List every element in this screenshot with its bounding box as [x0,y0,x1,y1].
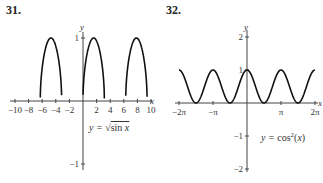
svg-text:−2π: −2π [172,107,187,117]
charts-canvas: −10−8−6−4−22468101−1 x y y = √sin x −2π−… [0,0,323,183]
svg-text:−1: −1 [233,131,243,141]
curve-sqrt-sin [40,38,147,98]
svg-text:−π: −π [208,107,218,117]
svg-text:2: 2 [239,32,244,42]
svg-text:−10: −10 [8,105,23,115]
svg-text:2: 2 [94,105,99,115]
svg-text:−1: −1 [69,159,79,169]
chart-32-equation: y = cos2(x) [260,131,305,144]
chart-31-equation: y = √sin x [88,122,130,133]
svg-text:10: 10 [147,105,157,115]
svg-text:y: y [243,22,248,32]
svg-text:2π: 2π [310,107,320,117]
svg-text:−6: −6 [37,105,47,115]
svg-text:6: 6 [122,105,127,115]
svg-text:−2: −2 [233,164,243,174]
svg-text:4: 4 [108,105,113,115]
svg-text:−8: −8 [24,105,34,115]
svg-text:1: 1 [239,65,244,75]
svg-text:x: x [149,96,154,106]
svg-text:1: 1 [75,33,80,43]
svg-text:−4: −4 [51,105,61,115]
svg-text:x: x [317,98,322,108]
chart-31 [10,32,152,170]
svg-text:π: π [279,107,284,117]
svg-text:8: 8 [135,105,140,115]
svg-text:y: y [79,22,84,32]
svg-text:−2: −2 [65,105,75,115]
chart-32 [175,30,318,172]
